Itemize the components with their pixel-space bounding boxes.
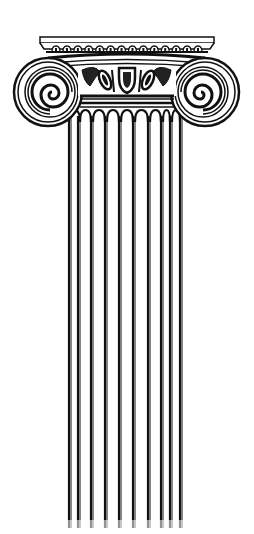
echinus-egg-and-dart: [78, 66, 176, 96]
abacus: [40, 37, 214, 52]
volute-left: [14, 58, 82, 126]
volute-right: [171, 58, 239, 126]
column-drawing: [0, 0, 254, 534]
ionic-column-illustration: [0, 0, 254, 534]
